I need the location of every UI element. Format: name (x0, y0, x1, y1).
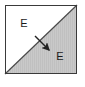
figure-container: E E (0, 0, 85, 87)
region-label-upper-left: E (20, 17, 27, 29)
region-label-lower-right: E (56, 50, 63, 62)
geometric-diagram: E E (0, 0, 85, 87)
